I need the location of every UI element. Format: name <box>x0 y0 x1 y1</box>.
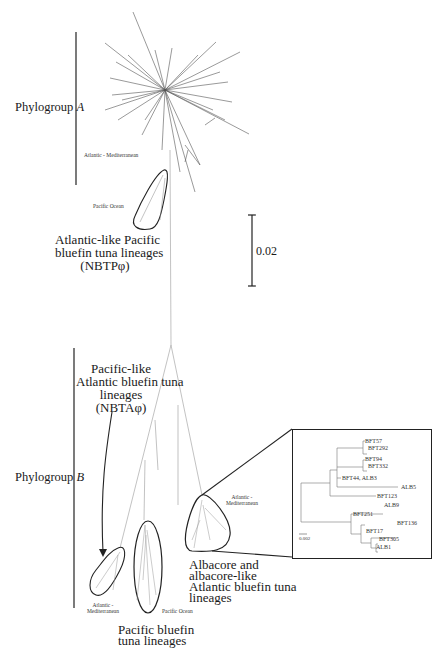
taxon-bft57: BFT57 <box>365 438 382 444</box>
inset-tree-panel: BFT57 BFT292 BFT94 BFT332 BFT44, ALB3 AL… <box>292 429 432 559</box>
taxon-alb1: ALB1 <box>376 544 391 550</box>
taxon-bft332: BFT332 <box>368 463 388 469</box>
nbtp-lineage-label: Atlantic-like Pacific bluefin tuna linea… <box>55 233 155 272</box>
phylogroup-a-prefix: Phylogroup <box>15 100 76 114</box>
phylogroup-a-starburst <box>105 12 249 192</box>
phylogroup-b-letter: B <box>76 470 84 484</box>
nbtp-line-3: (NBTPφ) <box>55 259 155 272</box>
phylogroup-b-label: Phylogroup B <box>15 470 84 485</box>
phylogroup-a-letter: A <box>76 100 84 114</box>
region-atlantic-b-right: Atlantic - Mediterranean <box>222 494 262 506</box>
albacore-lineage-label: Albacore and albacore-like Atlantic blue… <box>189 559 297 603</box>
scale-bar <box>248 215 256 286</box>
phylogroup-a-label: Phylogroup A <box>15 100 84 115</box>
taxon-bft305: BFT305 <box>379 536 399 542</box>
pacific-bluefin-ellipse <box>134 521 162 613</box>
inset-scale-bar-label: 0.002 <box>299 536 310 542</box>
region-atlantic-b-left-2: Mediterranean <box>83 608 123 614</box>
scale-bar-label: 0.02 <box>256 244 277 259</box>
pacific-bluefin-lineage-label: Pacific bluefin tuna lineages <box>118 624 194 646</box>
taxon-bft94: BFT94 <box>365 456 382 462</box>
inset-connector-top <box>202 429 292 495</box>
region-atlantic-a: Atlantic - Mediterranean <box>84 152 138 158</box>
central-stem <box>170 150 171 345</box>
taxon-bft123: BFT123 <box>377 493 397 499</box>
taxon-alb9: ALB9 <box>384 502 399 508</box>
taxon-bft251: BFT251 <box>353 511 373 517</box>
taxon-alb5: ALB5 <box>401 484 416 490</box>
region-pacific-a: Pacific Ocean <box>93 203 124 209</box>
taxon-bft17: BFT17 <box>366 528 383 534</box>
nbta-lineage-label: Pacific-like Atlantic bluefin tuna linea… <box>76 362 166 414</box>
inset-tree-branches <box>293 430 431 558</box>
nbta-line-4: (NBTAφ) <box>76 401 166 414</box>
arrow-head <box>99 549 107 557</box>
pacific-bluefin-line-2: tuna lineages <box>118 635 194 646</box>
nbta-arrow <box>102 412 112 552</box>
region-atlantic-b-left: Atlantic - Mediterranean <box>83 602 123 614</box>
region-pacific-b: Pacific Ocean <box>162 608 193 614</box>
taxon-bft292: BFT292 <box>368 445 388 451</box>
taxon-bft136: BFT136 <box>397 520 417 526</box>
phylogroup-b-prefix: Phylogroup <box>15 470 76 484</box>
taxon-bft44-alb3: BFT44, ALB3 <box>342 475 377 481</box>
region-atlantic-b-right-2: Mediterranean <box>222 500 262 506</box>
